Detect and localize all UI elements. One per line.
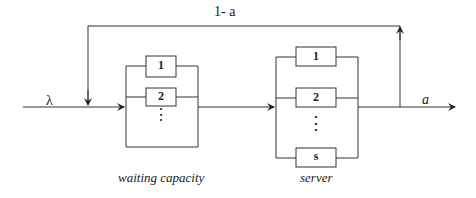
output-label: a [422, 92, 429, 108]
input-label: λ [46, 93, 53, 109]
server-caption: server [300, 170, 333, 186]
server-ellipsis: ⋮ [296, 115, 336, 131]
feedback-label: 1- a [214, 4, 235, 20]
queue-diagram [0, 0, 476, 198]
server-slot-s-label: s [296, 149, 336, 164]
waiting-slot-2-label: 2 [146, 89, 176, 104]
waiting-caption: waiting capacity [118, 170, 204, 186]
server-slot-1-label: 1 [296, 49, 336, 64]
waiting-slot-1-label: 1 [146, 58, 176, 73]
waiting-ellipsis: ⋮ [146, 108, 176, 122]
server-slot-2-label: 2 [296, 90, 336, 105]
